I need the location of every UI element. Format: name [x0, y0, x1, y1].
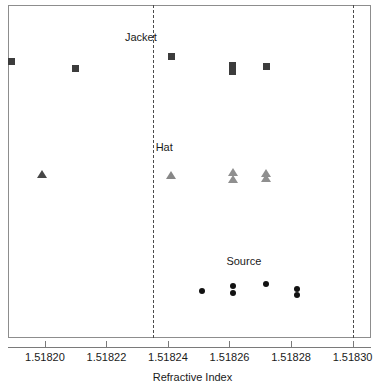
series-label-jacket: Jacket	[125, 31, 157, 43]
x-axis-title: Refractive Index	[0, 371, 385, 383]
x-tick-label-4: 1.51828	[271, 351, 311, 363]
data-point-source-4	[294, 286, 300, 292]
x-tick-label-1: 1.51822	[87, 351, 127, 363]
plot-area	[8, 5, 371, 338]
data-point-hat-3	[228, 175, 238, 183]
x-tick-label-5: 1.51830	[333, 351, 373, 363]
data-point-hat-5	[261, 174, 271, 182]
scatter-chart: JacketHatSource 1.518201.518221.518241.5…	[0, 0, 385, 390]
data-point-jacket-0	[8, 58, 15, 65]
data-point-source-2	[230, 290, 236, 296]
series-label-source: Source	[226, 255, 261, 267]
data-point-hat-0	[37, 170, 47, 178]
x-tick-4	[291, 341, 292, 348]
data-point-hat-1	[166, 171, 176, 179]
x-tick-2	[168, 341, 169, 348]
data-point-source-5	[294, 292, 300, 298]
data-point-jacket-4	[229, 68, 236, 75]
data-point-jacket-1	[72, 65, 79, 72]
x-tick-label-0: 1.51820	[25, 351, 65, 363]
x-tick-5	[353, 341, 354, 348]
data-point-jacket-5	[263, 63, 270, 70]
lower-reference-line	[153, 5, 154, 338]
x-tick-label-3: 1.51826	[210, 351, 250, 363]
series-label-hat: Hat	[156, 141, 173, 153]
x-tick-3	[229, 341, 230, 348]
data-point-jacket-2	[168, 53, 175, 60]
x-axis-line	[8, 347, 371, 348]
data-point-source-1	[230, 283, 236, 289]
x-tick-label-2: 1.51824	[148, 351, 188, 363]
x-tick-1	[106, 341, 107, 348]
upper-reference-line	[353, 5, 354, 338]
x-tick-0	[45, 341, 46, 348]
